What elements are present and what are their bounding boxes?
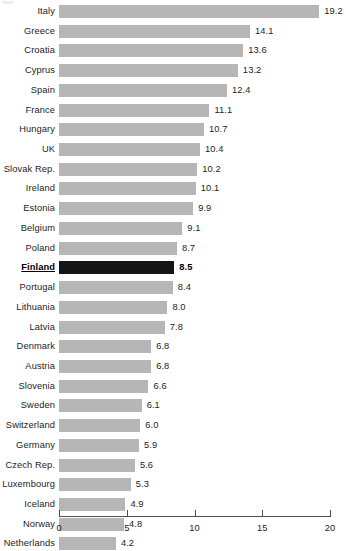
bar-track bbox=[59, 104, 330, 117]
bar-track bbox=[59, 478, 330, 491]
category-label: Slovenia bbox=[0, 379, 55, 394]
bar-value-label: 12.4 bbox=[232, 83, 251, 98]
bar-value-label: 10.4 bbox=[205, 142, 224, 157]
bar-value-label: 10.2 bbox=[202, 162, 221, 177]
bar-track bbox=[59, 301, 330, 314]
bar-track bbox=[59, 498, 330, 511]
bar-value-label: 11.1 bbox=[214, 103, 232, 118]
bar-row: Hungary10.7 bbox=[0, 123, 346, 136]
bar-row: Belgium9.1 bbox=[0, 222, 346, 235]
bar-row: Sweden6.1 bbox=[0, 399, 346, 412]
bar bbox=[59, 242, 177, 255]
bar bbox=[59, 5, 319, 18]
bar-row: Netherlands4.2 bbox=[0, 537, 346, 550]
bar-row: Czech Rep.5.6 bbox=[0, 459, 346, 472]
bar bbox=[59, 360, 151, 373]
bar-track bbox=[59, 419, 330, 432]
bar bbox=[59, 182, 196, 195]
bar bbox=[59, 281, 173, 294]
bar-value-label: 8.0 bbox=[172, 300, 185, 315]
bar-value-label: 10.7 bbox=[209, 122, 228, 137]
bar-track bbox=[59, 44, 330, 57]
bar-value-label: 5.3 bbox=[136, 477, 149, 492]
bar-row: Denmark6.8 bbox=[0, 340, 346, 353]
category-label: Czech Rep. bbox=[0, 458, 55, 473]
bar-track bbox=[59, 143, 330, 156]
category-label: Ireland bbox=[0, 181, 55, 196]
bar bbox=[59, 301, 167, 314]
bar-track bbox=[59, 380, 330, 393]
bar bbox=[59, 537, 116, 550]
category-label: Austria bbox=[0, 359, 55, 374]
category-label: Latvia bbox=[0, 320, 55, 335]
bar-value-label: 6.1 bbox=[147, 398, 160, 413]
bar-value-label: 8.7 bbox=[182, 241, 195, 256]
category-label: Greece bbox=[0, 24, 55, 39]
category-label: Iceland bbox=[0, 497, 55, 512]
bar-row: Latvia7.8 bbox=[0, 321, 346, 334]
bar-row: Norway4.8 bbox=[0, 518, 346, 531]
bar bbox=[59, 459, 135, 472]
category-label: Slovak Rep. bbox=[0, 162, 55, 177]
category-label: Spain bbox=[0, 83, 55, 98]
bar-value-label: 4.2 bbox=[121, 536, 134, 551]
category-label: Poland bbox=[0, 241, 55, 256]
bar-track bbox=[59, 163, 330, 176]
x-axis-tick bbox=[59, 510, 60, 517]
bar-track bbox=[59, 84, 330, 97]
bar-value-label: 4.9 bbox=[130, 497, 143, 512]
category-label: Croatia bbox=[0, 43, 55, 58]
bar-row: Ireland10.1 bbox=[0, 182, 346, 195]
category-label: France bbox=[0, 103, 55, 118]
bar-track bbox=[59, 340, 330, 353]
x-axis-tick bbox=[195, 510, 196, 517]
bar bbox=[59, 25, 250, 38]
bar bbox=[59, 123, 204, 136]
category-label: Portugal bbox=[0, 280, 55, 295]
bar-track bbox=[59, 64, 330, 77]
bar-row: Croatia13.6 bbox=[0, 44, 346, 57]
bar-track bbox=[59, 202, 330, 215]
category-label: Estonia bbox=[0, 201, 55, 216]
bar-value-label: 13.2 bbox=[243, 63, 262, 78]
category-label: Lithuania bbox=[0, 300, 55, 315]
bar bbox=[59, 321, 165, 334]
bar-value-label: 6.6 bbox=[153, 379, 166, 394]
bar-row: Austria6.8 bbox=[0, 360, 346, 373]
x-axis-tick bbox=[127, 510, 128, 517]
category-label: Italy bbox=[0, 4, 55, 19]
bar-row: Spain12.4 bbox=[0, 84, 346, 97]
bar-rows-container: Italy19.2Greece14.1Croatia13.6Cyprus13.2… bbox=[0, 0, 346, 502]
bar-row: Germany5.9 bbox=[0, 439, 346, 452]
category-label: Belgium bbox=[0, 221, 55, 236]
x-axis-tick bbox=[330, 510, 331, 517]
bar-value-label: 8.4 bbox=[178, 280, 191, 295]
bar-value-label: 10.1 bbox=[201, 181, 220, 196]
category-label: Finland bbox=[0, 260, 55, 275]
bar-track bbox=[59, 25, 330, 38]
bar-track bbox=[59, 123, 330, 136]
bar-row: UK10.4 bbox=[0, 143, 346, 156]
bar-row: Luxembourg5.3 bbox=[0, 478, 346, 491]
bar-track bbox=[59, 182, 330, 195]
bar-value-label: 5.9 bbox=[144, 438, 157, 453]
bar-row: Cyprus13.2 bbox=[0, 64, 346, 77]
category-label: Cyprus bbox=[0, 63, 55, 78]
category-label: Luxembourg bbox=[0, 477, 55, 492]
bar-row: Iceland4.9 bbox=[0, 498, 346, 511]
bar-value-label: 19.2 bbox=[324, 4, 343, 19]
bar-value-label: 6.0 bbox=[145, 418, 158, 433]
bar-value-label: 14.1 bbox=[255, 24, 274, 39]
bar-value-label: 8.5 bbox=[179, 260, 192, 275]
bar-row: Slovenia6.6 bbox=[0, 380, 346, 393]
bar-track bbox=[59, 360, 330, 373]
bar-track bbox=[59, 459, 330, 472]
bar-value-label: 5.6 bbox=[140, 458, 153, 473]
bar-value-label: 13.6 bbox=[248, 43, 267, 58]
bar bbox=[59, 399, 142, 412]
bar-row: Slovak Rep.10.2 bbox=[0, 163, 346, 176]
bar bbox=[59, 478, 131, 491]
category-label: Norway bbox=[0, 517, 55, 532]
bar bbox=[59, 202, 193, 215]
